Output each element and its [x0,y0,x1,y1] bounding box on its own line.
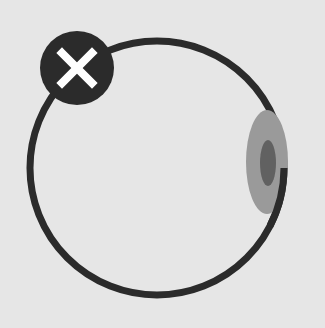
eye-illustration [0,0,325,328]
close-badge[interactable] [40,31,114,105]
pupil [260,140,276,186]
